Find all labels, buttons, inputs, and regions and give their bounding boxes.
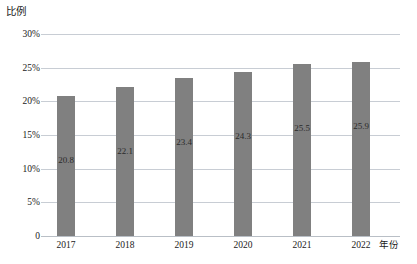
bar-chart: 比例 30%25%20%15%10%5%0 20.822.123.424.325…: [0, 0, 417, 264]
axis-baseline: [41, 236, 400, 237]
plot-area: [41, 34, 400, 236]
bar: [234, 72, 252, 236]
y-axis-tick-label: 10%: [6, 164, 40, 174]
bar-value-label: 25.9: [344, 121, 378, 131]
y-axis-tick-label: 25%: [6, 63, 40, 73]
bar: [175, 78, 193, 236]
bar: [293, 64, 311, 236]
x-axis-tick-label: 2017: [46, 240, 86, 251]
bar-value-label: 22.1: [108, 146, 142, 156]
gridline: [41, 169, 400, 170]
y-axis-title: 比例: [6, 6, 26, 18]
y-axis-tick-label: 30%: [6, 29, 40, 39]
bar-value-label: 20.8: [49, 155, 83, 165]
gridline: [41, 135, 400, 136]
x-axis-tick-label: 2019: [164, 240, 204, 251]
gridline: [41, 202, 400, 203]
y-axis-tick-label: 5%: [6, 197, 40, 207]
x-axis-tick-label: 2018: [105, 240, 145, 251]
y-axis-tick-label: 20%: [6, 96, 40, 106]
bar-value-label: 23.4: [167, 137, 201, 147]
bar: [116, 87, 134, 236]
y-axis-tick-label: 0: [6, 231, 40, 241]
bar: [352, 62, 370, 236]
gridline: [41, 68, 400, 69]
bar-value-label: 24.3: [226, 131, 260, 141]
x-axis-title: 年份: [379, 240, 399, 251]
gridline: [41, 101, 400, 102]
x-axis-tick-label: 2021: [282, 240, 322, 251]
bar: [57, 96, 75, 236]
y-axis-tick-label: 15%: [6, 130, 40, 140]
bar-value-label: 25.5: [285, 123, 319, 133]
x-axis-tick-label: 2022: [341, 240, 381, 251]
gridline: [41, 34, 400, 35]
x-axis-tick-label: 2020: [223, 240, 263, 251]
